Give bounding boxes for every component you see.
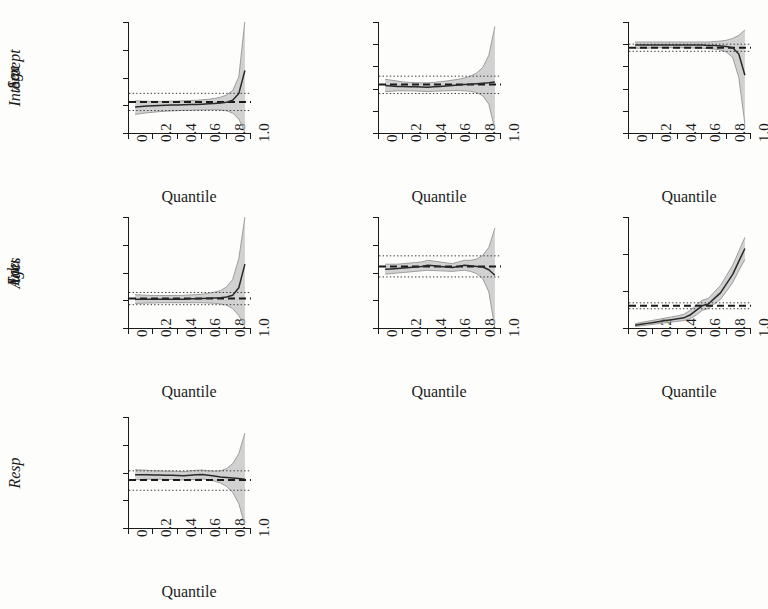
x-axis-tick bbox=[402, 134, 403, 139]
x-axis-tick bbox=[177, 529, 178, 534]
quantile-band-edge bbox=[135, 217, 245, 296]
x-axis-title: Quantile bbox=[98, 188, 280, 206]
x-axis-tick bbox=[226, 529, 227, 534]
x-axis-tick bbox=[250, 529, 251, 534]
x-axis-tick bbox=[652, 134, 653, 139]
x-axis-title: Quantile bbox=[98, 583, 280, 601]
x-axis-tick bbox=[652, 329, 653, 334]
x-axis-tick bbox=[201, 134, 202, 139]
quantile-regression-figure: 3000.002000.001000.000.00-1000.00Interce… bbox=[0, 0, 768, 609]
x-axis-tick bbox=[726, 329, 727, 334]
x-tick-label: 1.0 bbox=[256, 318, 273, 337]
x-axis-tick bbox=[152, 134, 153, 139]
x-axis-tick bbox=[677, 329, 678, 334]
x-axis-tick bbox=[451, 134, 452, 139]
x-axis-tick bbox=[152, 529, 153, 534]
x-axis-tick bbox=[128, 134, 129, 139]
x-axis-tick bbox=[152, 329, 153, 334]
x-tick-label: 0 bbox=[134, 135, 151, 143]
plot-area bbox=[129, 22, 251, 133]
plot-area bbox=[379, 22, 501, 133]
y-axis-title: Age bbox=[5, 65, 23, 90]
x-tick-label: 1.0 bbox=[756, 318, 768, 337]
x-axis-tick bbox=[701, 134, 702, 139]
plot-area bbox=[629, 22, 751, 133]
x-tick-label: 1.0 bbox=[506, 318, 523, 337]
x-tick-label: 0 bbox=[634, 135, 651, 143]
quantile-confidence-band bbox=[135, 217, 245, 327]
x-axis-tick bbox=[451, 329, 452, 334]
quantile-confidence-band bbox=[385, 228, 495, 328]
y-axis-title: Inc bbox=[5, 262, 23, 282]
x-axis-tick bbox=[427, 329, 428, 334]
x-axis-tick bbox=[701, 329, 702, 334]
x-tick-label: 1.0 bbox=[256, 518, 273, 537]
quantile-band-edge bbox=[135, 110, 245, 132]
x-axis-title: Quantile bbox=[598, 188, 768, 206]
quantile-band-edge bbox=[385, 270, 495, 328]
x-tick-label: 1.0 bbox=[256, 123, 273, 142]
x-tick-label: 1.0 bbox=[506, 123, 523, 142]
x-axis-title: Quantile bbox=[598, 383, 768, 401]
x-axis-tick bbox=[128, 529, 129, 534]
x-tick-label: 0 bbox=[134, 530, 151, 538]
x-tick-label: 0 bbox=[384, 135, 401, 143]
x-axis-tick bbox=[250, 329, 251, 334]
x-tick-label: 0 bbox=[134, 330, 151, 338]
x-axis-tick bbox=[500, 134, 501, 139]
x-axis-tick bbox=[628, 329, 629, 334]
quantile-band-edge bbox=[135, 303, 245, 327]
x-axis-tick bbox=[177, 329, 178, 334]
x-axis-tick bbox=[726, 134, 727, 139]
x-axis-tick bbox=[128, 329, 129, 334]
x-axis-tick bbox=[427, 134, 428, 139]
x-axis-tick bbox=[677, 134, 678, 139]
plot-area bbox=[129, 217, 251, 328]
plot-area bbox=[379, 217, 501, 328]
plot-area bbox=[629, 217, 751, 328]
x-tick-label: 1.0 bbox=[756, 123, 768, 142]
x-axis-tick bbox=[201, 329, 202, 334]
x-tick-label: 0 bbox=[634, 330, 651, 338]
x-axis-tick bbox=[201, 529, 202, 534]
quantile-confidence-band bbox=[385, 26, 495, 129]
x-axis-tick bbox=[476, 329, 477, 334]
x-axis-title: Quantile bbox=[98, 383, 280, 401]
x-axis-tick bbox=[500, 329, 501, 334]
quantile-band-edge bbox=[135, 22, 245, 101]
quantile-band-edge bbox=[635, 48, 745, 124]
x-axis-tick bbox=[750, 329, 751, 334]
quantile-band-edge bbox=[135, 433, 245, 472]
quantile-confidence-band bbox=[135, 22, 245, 132]
x-axis-tick bbox=[226, 134, 227, 139]
x-axis-tick bbox=[628, 134, 629, 139]
x-axis-tick bbox=[378, 134, 379, 139]
x-axis-tick bbox=[250, 134, 251, 139]
x-axis-tick bbox=[402, 329, 403, 334]
quantile-band-edge bbox=[385, 91, 495, 130]
x-tick-label: 0 bbox=[384, 330, 401, 338]
x-axis-tick bbox=[378, 329, 379, 334]
x-axis-tick bbox=[750, 134, 751, 139]
x-axis-tick bbox=[476, 134, 477, 139]
x-axis-tick bbox=[226, 329, 227, 334]
y-axis-title: Resp bbox=[5, 457, 23, 488]
x-axis-title: Quantile bbox=[348, 383, 530, 401]
x-axis-tick bbox=[177, 134, 178, 139]
x-axis-title: Quantile bbox=[348, 188, 530, 206]
plot-area bbox=[129, 417, 251, 528]
